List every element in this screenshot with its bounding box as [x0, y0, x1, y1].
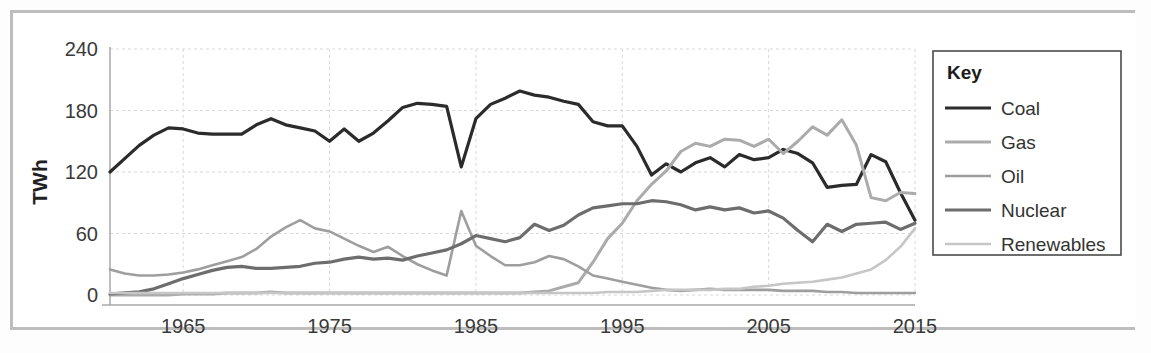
series-group	[110, 91, 915, 295]
x-axis-tick-labels: 196519751985199520052015	[161, 315, 937, 337]
legend-label-nuclear[interactable]: Nuclear	[1001, 200, 1067, 221]
legend-label-gas[interactable]: Gas	[1001, 132, 1036, 153]
series-line-nuclear	[110, 201, 915, 294]
series-line-oil	[110, 211, 915, 293]
x-tick-label: 1985	[454, 315, 499, 337]
series-line-gas	[110, 120, 915, 295]
y-tick-label: 60	[76, 223, 98, 245]
legend-title: Key	[947, 62, 982, 83]
x-tick-label: 1995	[600, 315, 645, 337]
x-tick-label: 2015	[893, 315, 938, 337]
y-tick-label: 180	[65, 100, 98, 122]
gridlines-group	[110, 49, 915, 295]
plot-wrapper: 060120180240 196519751985199520052015 TW…	[0, 0, 1151, 353]
y-axis-label: TWh	[28, 159, 51, 204]
legend: KeyCoalGasOilNuclearRenewables	[933, 51, 1121, 255]
legend-label-coal[interactable]: Coal	[1001, 98, 1040, 119]
legend-label-oil[interactable]: Oil	[1001, 166, 1024, 187]
y-tick-label: 120	[65, 161, 98, 183]
y-tick-label: 0	[87, 284, 98, 306]
legend-label-renewables[interactable]: Renewables	[1001, 234, 1106, 255]
figure-container: 060120180240 196519751985199520052015 TW…	[0, 0, 1151, 353]
x-tick-label: 1965	[161, 315, 206, 337]
y-axis-tick-labels: 060120180240	[65, 38, 98, 306]
x-tick-label: 1975	[307, 315, 352, 337]
y-tick-label: 240	[65, 38, 98, 60]
line-chart: 060120180240 196519751985199520052015 TW…	[0, 0, 1151, 353]
x-tick-label: 2005	[746, 315, 791, 337]
